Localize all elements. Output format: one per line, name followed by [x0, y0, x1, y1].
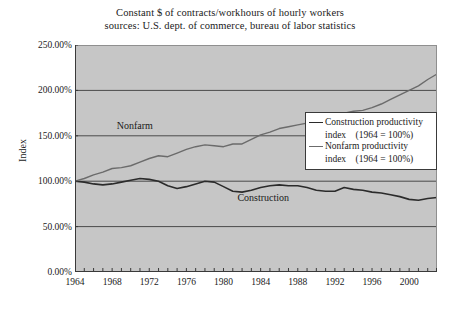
y-tick-label: 50.00%: [8, 222, 72, 232]
x-tick-label: 1976: [177, 277, 196, 287]
x-tick-label: 1988: [288, 277, 307, 287]
chart-title-block: Constant $ of contracts/workhours of hou…: [0, 6, 460, 32]
legend-entry: Nonfarm productivity: [309, 141, 432, 153]
chart-subtitle: sources: U.S. dept. of commerce, bureau …: [0, 19, 460, 32]
legend-entry-sublabel: index (1964 = 100%): [309, 154, 432, 166]
x-tick-label: 1996: [363, 277, 382, 287]
x-tick-label: 2000: [400, 277, 419, 287]
x-tick-label: 1984: [251, 277, 270, 287]
legend-line-swatch-icon: [309, 141, 323, 152]
legend-entry-sublabel: index (1964 = 100%): [309, 130, 432, 142]
x-axis-ticks: 1964196819721976198019841988199219962000: [75, 277, 437, 297]
y-tick-label: 150.00%: [8, 131, 72, 141]
chart-title: Constant $ of contracts/workhours of hou…: [0, 6, 460, 19]
series-label-nonfarm: Nonfarm: [117, 120, 153, 131]
x-tick-label: 1972: [140, 277, 159, 287]
legend-line-swatch-icon: [309, 117, 323, 128]
series-label-construction: Construction: [237, 192, 289, 203]
y-tick-label: 250.00%: [8, 40, 72, 50]
y-tick-label: 200.00%: [8, 85, 72, 95]
legend-entry: Construction productivity: [309, 117, 432, 129]
chart-legend: Construction productivityindex (1964 = 1…: [305, 112, 437, 170]
y-tick-label: 100.00%: [8, 176, 72, 186]
x-tick-label: 1980: [214, 277, 233, 287]
legend-entry-label: Nonfarm productivity: [325, 141, 408, 153]
chart-container: Constant $ of contracts/workhours of hou…: [0, 0, 460, 310]
y-axis-ticks: 250.00%200.00%150.00%100.00%50.00%0.00%: [0, 45, 72, 272]
x-tick-label: 1964: [66, 277, 85, 287]
legend-entry-label: Construction productivity: [325, 117, 423, 129]
y-tick-label: 0.00%: [8, 267, 72, 277]
x-tick-label: 1992: [325, 277, 344, 287]
x-tick-label: 1968: [103, 277, 122, 287]
